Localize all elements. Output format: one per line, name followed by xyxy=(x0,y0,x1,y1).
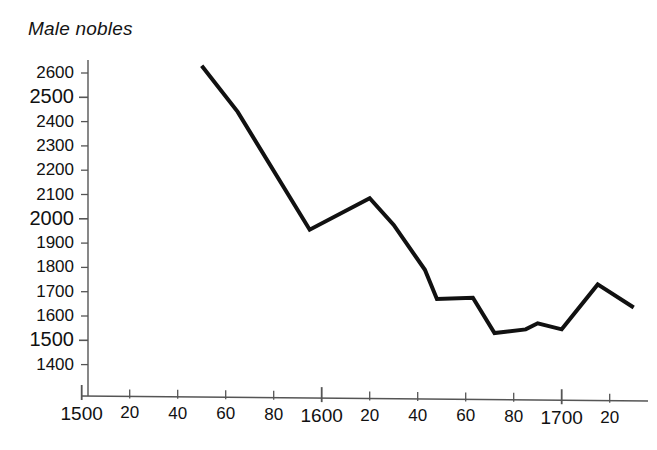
y-tick-label: 2600 xyxy=(8,63,74,83)
axes xyxy=(81,60,648,401)
x-tick-label: 20 xyxy=(580,408,640,428)
y-tick-label: 2200 xyxy=(8,160,74,180)
axis-ticks xyxy=(79,73,610,404)
x-axis-line xyxy=(81,396,648,401)
y-tick-label: 1400 xyxy=(8,355,74,375)
y-tick-label: 1600 xyxy=(8,306,74,326)
y-tick-label: 2400 xyxy=(8,112,74,132)
y-tick-label: 2500 xyxy=(8,85,74,108)
plot-area xyxy=(0,0,657,450)
y-tick-label: 1500 xyxy=(8,328,74,351)
y-tick-label: 1700 xyxy=(8,282,74,302)
chart-figure: Male nobles 1400150016001700180019002000… xyxy=(0,0,657,450)
y-tick-label: 2100 xyxy=(8,185,74,205)
y-tick-label: 2300 xyxy=(8,136,74,156)
data-series-line xyxy=(202,66,634,333)
y-tick-label: 1800 xyxy=(8,257,74,277)
y-tick-label: 2000 xyxy=(8,207,74,230)
y-tick-label: 1900 xyxy=(8,233,74,253)
